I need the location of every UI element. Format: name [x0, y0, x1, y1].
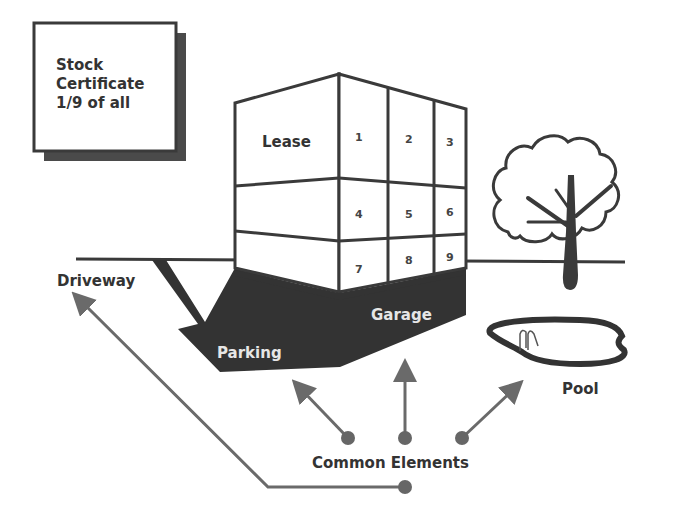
condo-diagram: Stock Certificate 1/9 of all Parking Gar… — [0, 0, 678, 522]
driveway-label: Driveway — [57, 272, 135, 290]
common-elements-label: Common Elements — [312, 454, 469, 472]
parking-label: Parking — [217, 344, 282, 362]
unit-2: 2 — [405, 133, 413, 146]
unit-7: 7 — [355, 263, 363, 276]
lease-label: Lease — [262, 133, 311, 151]
tree-icon — [493, 136, 618, 290]
unit-1: 1 — [355, 131, 363, 144]
certificate-line-3: 1/9 of all — [56, 94, 130, 112]
certificate-line-2: Certificate — [56, 75, 144, 93]
building — [235, 74, 466, 300]
garage-label: Garage — [371, 306, 432, 324]
unit-9: 9 — [446, 251, 454, 264]
unit-6: 6 — [446, 206, 454, 219]
unit-8: 8 — [405, 254, 413, 267]
arrow-to-parking — [300, 388, 348, 438]
stock-certificate: Stock Certificate 1/9 of all — [34, 23, 186, 161]
unit-5: 5 — [405, 208, 413, 221]
certificate-line-1: Stock — [56, 56, 104, 74]
unit-3: 3 — [446, 136, 454, 149]
pool-label: Pool — [562, 380, 599, 398]
unit-4: 4 — [355, 208, 363, 221]
arrow-to-pool — [462, 388, 515, 438]
pool-icon — [489, 320, 624, 364]
